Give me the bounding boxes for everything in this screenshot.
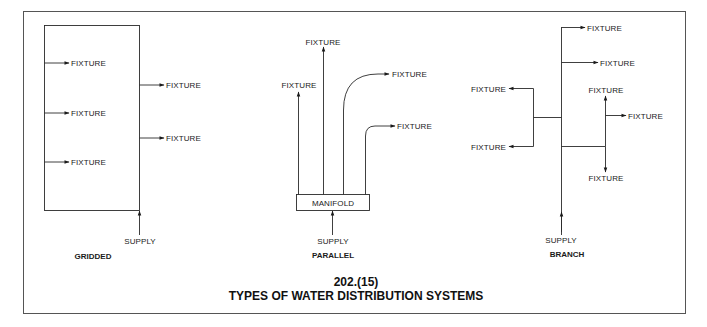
fixture-label: FIXTURE xyxy=(71,158,106,167)
supply-label: SUPPLY xyxy=(317,237,349,246)
supply-label: SUPPLY xyxy=(545,236,577,245)
branch-system: FIXTURE FIXTURE FIXTURE FIXTURE FIXTURE … xyxy=(471,24,663,260)
fixture-label: FIXTURE xyxy=(166,134,201,143)
fixture-label: FIXTURE xyxy=(392,70,427,79)
system-caption: BRANCH xyxy=(550,250,585,259)
fixture-label: FIXTURE xyxy=(71,109,106,118)
fixture-label: FIXTURE xyxy=(587,24,622,33)
system-caption: PARALLEL xyxy=(312,251,354,260)
fixture-label: FIXTURE xyxy=(471,85,506,94)
grid-loop xyxy=(45,26,140,211)
fixture-label: FIXTURE xyxy=(589,86,624,95)
manifold-label: MANIFOLD xyxy=(312,199,354,208)
fixture-label: FIXTURE xyxy=(282,81,317,90)
fixture-label: FIXTURE xyxy=(589,174,624,183)
arrow-icon xyxy=(344,74,390,195)
fixture-label: FIXTURE xyxy=(397,122,432,131)
parallel-system: MANIFOLD FIXTURE FIXTURE FIXTURE FIXTURE… xyxy=(282,38,432,260)
figure-title: TYPES OF WATER DISTRIBUTION SYSTEMS xyxy=(229,289,483,303)
arrow-icon xyxy=(366,126,396,195)
fixture-label: FIXTURE xyxy=(600,59,635,68)
water-distribution-diagram: FIXTURE FIXTURE FIXTURE FIXTURE FIXTURE … xyxy=(0,0,707,327)
fixture-label: FIXTURE xyxy=(71,59,106,68)
fixture-label: FIXTURE xyxy=(306,38,341,47)
gridded-system: FIXTURE FIXTURE FIXTURE FIXTURE FIXTURE … xyxy=(45,26,201,262)
fixture-label: FIXTURE xyxy=(166,81,201,90)
figure-number: 202.(15) xyxy=(334,275,379,289)
supply-label: SUPPLY xyxy=(124,237,156,246)
fixture-label: FIXTURE xyxy=(471,143,506,152)
fixture-label: FIXTURE xyxy=(628,112,663,121)
figure-frame xyxy=(24,12,686,314)
system-caption: GRIDDED xyxy=(75,252,112,261)
